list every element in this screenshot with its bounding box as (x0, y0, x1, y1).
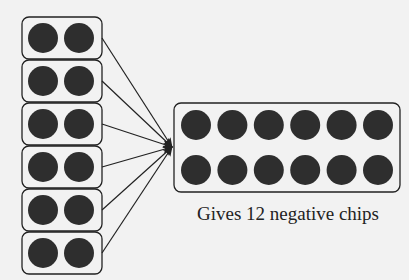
negative-chip (290, 110, 320, 140)
result-chip-group (174, 103, 400, 192)
chip-group (22, 17, 102, 59)
negative-chip (254, 155, 284, 185)
left-chip-groups (22, 17, 102, 274)
arrows (102, 38, 172, 253)
negative-chip (64, 66, 94, 96)
negative-chip (28, 109, 58, 139)
negative-chip (217, 110, 247, 140)
chip-diagram (0, 0, 409, 280)
negative-chip (327, 110, 357, 140)
negative-chip (28, 23, 58, 53)
chip-group (22, 189, 102, 231)
negative-chip (28, 195, 58, 225)
negative-chip (64, 152, 94, 182)
negative-chip (217, 155, 247, 185)
arrow (102, 81, 172, 147)
negative-chip (28, 238, 58, 268)
negative-chip (28, 66, 58, 96)
negative-chip (64, 195, 94, 225)
chip-group (22, 60, 102, 102)
arrow (102, 124, 172, 147)
negative-chip (363, 155, 393, 185)
chip-group (22, 146, 102, 188)
negative-chip (64, 23, 94, 53)
negative-chip (28, 152, 58, 182)
negative-chip (181, 155, 211, 185)
negative-chip (290, 155, 320, 185)
negative-chip (64, 109, 94, 139)
negative-chip (181, 110, 211, 140)
caption: Gives 12 negative chips (174, 203, 402, 225)
negative-chip (363, 110, 393, 140)
negative-chip (327, 155, 357, 185)
chip-group (22, 103, 102, 145)
chip-group (22, 232, 102, 274)
arrow (102, 38, 172, 147)
negative-chip (64, 238, 94, 268)
negative-chip (254, 110, 284, 140)
